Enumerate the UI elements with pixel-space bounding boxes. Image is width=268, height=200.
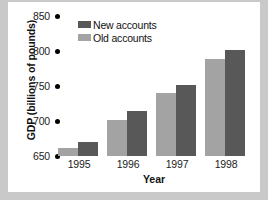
y-axis-tick: 850: [12, 11, 60, 21]
legend-label-old-accounts: Old accounts: [93, 32, 152, 44]
chart-figure: GDP (billions of pounds) 650700750800850…: [8, 2, 260, 192]
y-axis-tick: 700: [12, 116, 60, 126]
legend-swatch-new-accounts-icon: [78, 21, 91, 28]
bar-old-accounts: [58, 148, 78, 156]
x-axis-tick-label: 1996: [105, 158, 151, 170]
bar-group: [203, 16, 249, 156]
y-axis-tick-label: 650: [33, 150, 50, 162]
y-axis-tick: 650: [12, 151, 60, 161]
legend-swatch-old-accounts-icon: [78, 34, 91, 41]
plot-area: 650700750800850 New accounts Old account…: [56, 16, 252, 156]
x-axis-title: Year: [56, 173, 252, 185]
bar-new-accounts: [176, 85, 196, 156]
y-axis-tick-label: 700: [33, 115, 50, 127]
bar-group: [154, 16, 200, 156]
x-axis-tick-label: 1995: [56, 158, 102, 170]
x-axis-tick-label: 1998: [203, 158, 249, 170]
bar-old-accounts: [107, 120, 127, 156]
legend-item-old-accounts: Old accounts: [78, 31, 157, 44]
x-axis-tick-label: 1997: [154, 158, 200, 170]
bar-new-accounts: [225, 50, 245, 156]
bar-new-accounts: [127, 111, 147, 156]
bar-new-accounts: [78, 142, 98, 156]
legend-label-new-accounts: New accounts: [93, 19, 157, 31]
y-axis-tick-label: 850: [33, 10, 50, 22]
y-axis-tick: 750: [12, 81, 60, 91]
legend-item-new-accounts: New accounts: [78, 18, 157, 31]
y-axis-tick: 800: [12, 46, 60, 56]
chart-legend: New accounts Old accounts: [78, 18, 157, 44]
bar-old-accounts: [205, 59, 225, 156]
y-axis-tick-label: 750: [33, 80, 50, 92]
y-axis-tick-label: 800: [33, 45, 50, 57]
x-axis: 1995199619971998: [56, 158, 252, 172]
bar-old-accounts: [156, 93, 176, 156]
